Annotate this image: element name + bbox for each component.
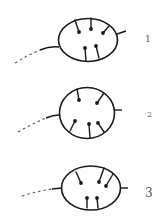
dot bbox=[101, 31, 105, 35]
tail-1 bbox=[40, 47, 59, 50]
stalk bbox=[99, 168, 104, 182]
tail-3 bbox=[52, 188, 62, 189]
dot bbox=[83, 46, 87, 50]
dot bbox=[77, 30, 81, 34]
panel-label-1: 1 bbox=[145, 34, 151, 44]
dot bbox=[104, 184, 108, 188]
stalk bbox=[106, 174, 113, 186]
dot bbox=[85, 196, 89, 200]
diagram-canvas: 1 2 3 bbox=[0, 0, 161, 218]
dot bbox=[77, 98, 81, 102]
dot bbox=[97, 180, 101, 184]
right-stub-1 bbox=[117, 31, 126, 34]
dot bbox=[95, 196, 99, 200]
dot bbox=[89, 27, 93, 31]
dot bbox=[87, 122, 91, 126]
dashed-tail-1 bbox=[15, 50, 40, 63]
stalk bbox=[89, 124, 90, 138]
cell-outline-1 bbox=[59, 19, 118, 62]
dot bbox=[94, 44, 98, 48]
panel-label-2: 2 bbox=[147, 110, 152, 119]
panel-1: 1 bbox=[15, 18, 151, 63]
dashed-tail-3 bbox=[22, 189, 52, 196]
dashed-tail-2 bbox=[18, 118, 46, 132]
cell-outline-3 bbox=[62, 166, 121, 210]
cell-outline-2 bbox=[60, 88, 115, 139]
dot bbox=[79, 181, 83, 185]
dot bbox=[96, 121, 100, 125]
panel-label-3: 3 bbox=[145, 186, 153, 200]
panel-3: 3 bbox=[22, 166, 153, 210]
dot bbox=[73, 119, 77, 123]
dot bbox=[95, 101, 99, 105]
panel-2: 2 bbox=[18, 88, 152, 139]
stalk bbox=[85, 48, 86, 61]
tail-2 bbox=[46, 115, 59, 118]
